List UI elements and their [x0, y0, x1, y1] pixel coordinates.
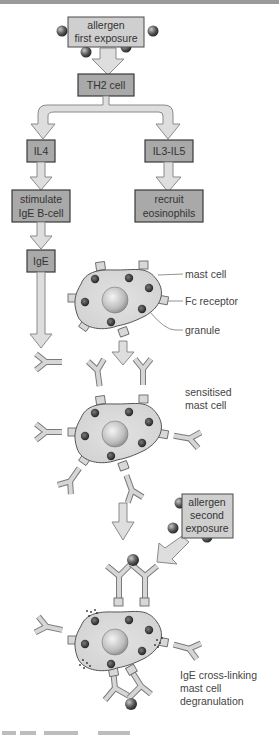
mast-cell-unsensitised: [68, 261, 169, 337]
recruit-eosinophils-box: recruit eosinophils: [135, 190, 203, 222]
mast-cell-sensitised: [36, 359, 201, 503]
arrow-diagonal-icon: [157, 536, 189, 564]
arrow-down-icon: [30, 162, 52, 190]
il4-box: IL4: [27, 140, 55, 162]
label-ige-cross-linking: IgE cross-linking: [180, 669, 257, 681]
ige-antibody-icon: [36, 354, 62, 370]
label-mast-cell-2: mast cell: [180, 682, 221, 694]
svg-text:stimulate: stimulate: [20, 193, 62, 205]
svg-text:second: second: [190, 509, 224, 521]
branch-connector: [31, 96, 180, 139]
label-mast-cell: mast cell: [185, 268, 226, 280]
arrow-down-icon: [30, 222, 52, 249]
allergen-first-exposure-box: allergen first exposure: [68, 17, 144, 47]
svg-text:IgE: IgE: [33, 255, 49, 267]
arrow-down-icon: [92, 48, 124, 75]
allergen-second-exposure-box: allergen second exposure: [182, 494, 233, 538]
leader-line: [158, 274, 183, 275]
svg-text:allergen: allergen: [188, 496, 226, 508]
svg-text:TH2 cell: TH2 cell: [87, 79, 126, 91]
stimulate-ige-bcell-box: stimulate IgE B-cell: [12, 190, 70, 222]
arrow-down-icon: [156, 162, 181, 192]
il3-il5-box: IL3-IL5: [145, 140, 193, 162]
svg-text:eosinophils: eosinophils: [143, 207, 196, 219]
th2-cell-box: TH2 cell: [78, 74, 134, 96]
svg-text:exposure: exposure: [185, 522, 228, 534]
svg-text:IL3-IL5: IL3-IL5: [153, 145, 186, 157]
arrow-down-icon: [30, 272, 52, 348]
leader-line: [150, 312, 183, 330]
svg-text:first exposure: first exposure: [74, 32, 137, 44]
svg-text:recruit: recruit: [154, 193, 183, 205]
svg-text:allergen: allergen: [87, 19, 125, 31]
label-sensitised-mast-cell: mast cell: [185, 399, 226, 411]
label-fc-receptor: Fc receptor: [185, 295, 239, 307]
ige-box: IgE: [27, 250, 55, 272]
svg-text:IL4: IL4: [34, 145, 49, 157]
label-sensitised: sensitised: [185, 386, 232, 398]
arrow-down-icon: [112, 341, 134, 365]
label-granule: granule: [185, 324, 220, 336]
svg-text:IgE B-cell: IgE B-cell: [19, 207, 64, 219]
allergic-reaction-diagram: allergen first exposure TH2 cell IL4 IL3…: [0, 0, 279, 735]
label-degranulation: degranulation: [180, 695, 244, 707]
mast-cell-degranulating: [35, 554, 201, 710]
arrow-down-icon: [112, 503, 134, 540]
cutoff-caption: [2, 731, 130, 735]
